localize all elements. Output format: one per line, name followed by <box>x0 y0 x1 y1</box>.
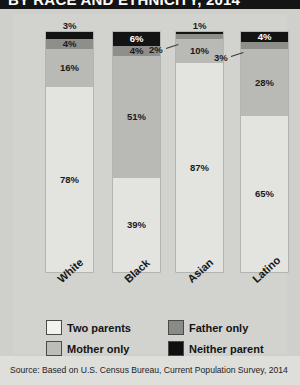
chart-title-bar: BY RACE AND ETHNICITY, 2014 <box>0 0 300 9</box>
above-bar-label-white: 3% <box>46 20 93 31</box>
segment-value-label: 10% <box>190 46 209 56</box>
segment-value-label: 65% <box>255 189 274 199</box>
segment-value-label: 16% <box>60 63 79 73</box>
segment-value-label: 78% <box>60 175 79 185</box>
legend-item-two[interactable]: Two parents <box>47 321 131 334</box>
segment-value-label: 6% <box>130 34 144 44</box>
legend-label: Father only <box>189 322 248 334</box>
segment-latino-neither[interactable]: 4% <box>241 32 288 42</box>
segment-white-mother[interactable]: 16% <box>46 49 93 87</box>
segment-value-label: 87% <box>190 163 209 173</box>
segment-value-label: 39% <box>127 220 146 230</box>
stacked-bar-latino[interactable]: 4%3%28%65% <box>241 32 288 272</box>
page-title: BY RACE AND ETHNICITY, 2014 <box>8 0 240 8</box>
callout-label-latino: 3% <box>214 52 228 63</box>
segment-value-label: 4% <box>258 32 272 42</box>
segment-black-mother[interactable]: 51% <box>113 56 160 178</box>
legend-swatch-father <box>169 321 183 334</box>
legend-label: Mother only <box>67 343 129 355</box>
stacked-bar-white[interactable]: 3%4%16%78% <box>46 32 93 272</box>
segment-white-two[interactable]: 78% <box>46 87 93 272</box>
legend-label: Neither parent <box>189 343 264 355</box>
stacked-bar-black[interactable]: 6%4%51%39% <box>113 32 160 272</box>
chart-panel-inner: 3%4%16%78%3%6%4%51%39%1%2%10%87%1%4%3%28… <box>13 14 287 354</box>
segment-value-label: 28% <box>255 78 274 88</box>
segment-black-two[interactable]: 39% <box>113 178 160 272</box>
segment-white-father[interactable]: 4% <box>46 39 93 49</box>
segment-latino-mother[interactable]: 28% <box>241 49 288 116</box>
segment-latino-father[interactable]: 3% <box>241 42 288 49</box>
segment-value-label: 4% <box>63 39 77 49</box>
callout-label-asian: 2% <box>149 44 163 55</box>
segment-latino-two[interactable]: 65% <box>241 116 288 272</box>
legend-item-neither[interactable]: Neither parent <box>169 342 264 355</box>
segment-value-label: 51% <box>127 112 146 122</box>
plot-area: 3%4%16%78%3%6%4%51%39%1%2%10%87%1%4%3%28… <box>33 32 295 272</box>
legend-swatch-mother <box>47 342 61 355</box>
stacked-bar-asian[interactable]: 1%2%10%87% <box>176 32 223 272</box>
above-bar-label-asian: 1% <box>176 20 223 31</box>
legend-item-mother[interactable]: Mother only <box>47 342 129 355</box>
chart-panel: 3%4%16%78%3%6%4%51%39%1%2%10%87%1%4%3%28… <box>0 9 300 356</box>
legend-swatch-neither <box>169 342 183 355</box>
segment-value-label: 4% <box>130 46 144 56</box>
source-note: Source: Based on U.S. Census Bureau, Cur… <box>10 365 288 375</box>
legend-label: Two parents <box>67 322 131 334</box>
legend-swatch-two <box>47 321 61 334</box>
legend-item-father[interactable]: Father only <box>169 321 248 334</box>
segment-asian-two[interactable]: 87% <box>176 63 223 272</box>
category-axis: WhiteBlackAsianLatino <box>33 276 295 316</box>
